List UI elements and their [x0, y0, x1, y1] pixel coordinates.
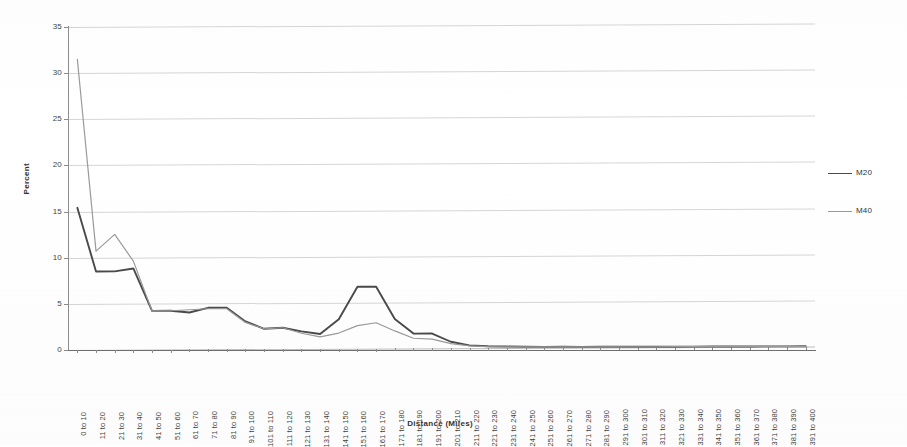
y-tick-label: 0 — [36, 346, 62, 354]
x-tick-mark — [656, 347, 657, 350]
x-tick-label: 121 to 130 — [304, 411, 312, 447]
x-tick-mark — [171, 350, 172, 353]
gridline — [68, 254, 815, 258]
x-tick-mark — [675, 347, 676, 350]
x-tick-mark — [133, 350, 134, 353]
x-tick-mark — [339, 349, 340, 352]
x-tick-mark — [488, 348, 489, 351]
y-tick-label: 25 — [36, 115, 62, 123]
x-axis-line — [68, 350, 816, 351]
x-tick-mark — [470, 348, 471, 351]
x-tick-label: 111 to 120 — [286, 411, 294, 446]
x-tick-mark — [750, 347, 751, 350]
x-tick-mark — [432, 348, 433, 351]
x-tick-mark — [600, 348, 601, 351]
x-tick-label: 241 to 250 — [529, 410, 537, 446]
x-tick-mark — [301, 349, 302, 352]
legend-label: M40 — [856, 207, 872, 215]
legend-swatch-icon — [828, 211, 852, 212]
x-tick-mark — [264, 349, 265, 352]
x-tick-mark — [283, 349, 284, 352]
gridline — [68, 300, 815, 304]
gridline — [68, 70, 815, 74]
y-tick-label: 30 — [36, 69, 62, 77]
x-tick-mark — [694, 347, 695, 350]
x-tick-mark — [544, 348, 545, 351]
x-tick-mark — [507, 348, 508, 351]
x-tick-mark — [227, 349, 228, 352]
x-tick-label: 221 to 230 — [491, 410, 499, 446]
x-tick-mark — [208, 349, 209, 352]
legend-item-m40[interactable]: M40 — [828, 206, 906, 216]
x-tick-mark — [451, 348, 452, 351]
x-tick-mark — [712, 347, 713, 350]
x-tick-mark — [395, 348, 396, 351]
x-tick-label: 131 to 140 — [323, 411, 331, 447]
x-tick-mark — [413, 348, 414, 351]
x-tick-mark — [563, 348, 564, 351]
x-tick-mark — [768, 347, 769, 350]
x-tick-label: 151 to 160 — [360, 411, 368, 447]
x-tick-mark — [357, 349, 358, 352]
x-tick-mark — [77, 350, 78, 353]
y-tick-label: 35 — [36, 23, 62, 31]
x-tick-mark — [787, 347, 788, 350]
x-tick-label: 171 to 180 — [398, 410, 406, 446]
x-tick-mark — [189, 349, 190, 352]
y-tick-label: 15 — [36, 208, 62, 216]
x-tick-label: 161 to 170 — [379, 411, 387, 447]
plot-area — [68, 27, 815, 350]
legend-label: M20 — [856, 169, 872, 177]
x-tick-mark — [376, 349, 377, 352]
x-tick-mark — [320, 349, 321, 352]
gridline — [68, 162, 815, 166]
y-tick-label: 5 — [36, 300, 62, 308]
x-tick-mark — [638, 347, 639, 350]
x-tick-label: 181 to 190 — [416, 410, 424, 446]
x-tick-mark — [619, 347, 620, 350]
x-tick-label: 211 to 220 — [473, 410, 481, 446]
x-tick-mark — [526, 348, 527, 351]
y-tick-label: 20 — [36, 161, 62, 169]
y-tick-label: 10 — [36, 254, 62, 262]
gridline — [68, 208, 815, 212]
x-tick-label: 191 to 200 — [435, 410, 443, 446]
gridline — [68, 24, 815, 28]
x-tick-label: 141 to 150 — [342, 411, 350, 447]
legend-item-m20[interactable]: M20 — [828, 168, 906, 178]
x-tick-mark — [731, 347, 732, 350]
x-tick-mark — [806, 347, 807, 350]
x-tick-mark — [245, 349, 246, 352]
x-axis-title: Distance (Miles) — [0, 419, 880, 428]
gridline — [68, 116, 815, 120]
x-tick-label: 101 to 110 — [267, 411, 275, 447]
legend-swatch-icon — [828, 173, 852, 174]
chart-legend: M20M40 — [828, 168, 906, 244]
x-tick-mark — [96, 350, 97, 353]
x-tick-label: 231 to 240 — [510, 410, 518, 446]
x-tick-label: 201 to 210 — [454, 410, 462, 446]
y-axis-line — [68, 26, 69, 351]
x-tick-mark — [152, 350, 153, 353]
x-tick-mark — [115, 350, 116, 353]
x-tick-mark — [582, 348, 583, 351]
